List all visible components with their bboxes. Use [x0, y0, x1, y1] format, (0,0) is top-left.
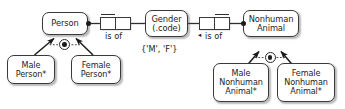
role-cell-gender-2[interactable]: [200, 18, 215, 29]
entity-male-nonhuman-animal-label: Male Nonhuman Animal*: [219, 69, 263, 95]
role-cell-nonhuman-animal[interactable]: [215, 18, 230, 29]
entity-female-person-label: Female Person*: [81, 61, 112, 78]
entity-female-nonhuman-animal-label: Female Nonhuman Animal*: [284, 69, 328, 95]
entity-person-label: Person: [51, 19, 78, 28]
role-cell-gender[interactable]: [116, 18, 131, 29]
predicate-person-gender[interactable]: [100, 17, 131, 30]
mandatory-role-dot-person: [86, 21, 91, 26]
predicate-person-gender-label: is of: [105, 31, 122, 41]
entity-nonhuman-animal-label: Nonhuman Animal: [249, 15, 294, 33]
value-constraint-gender: {'M', 'F'}: [141, 44, 177, 54]
uniqueness-constraint-animal-gender: [215, 14, 229, 15]
entity-female-person[interactable]: Female Person*: [71, 55, 121, 84]
entity-gender-label: Gender (.code): [152, 15, 182, 33]
uniqueness-constraint-person-gender: [101, 14, 115, 15]
subtype-link-female-person: [76, 39, 93, 56]
subtype-link-male-person: [35, 39, 55, 56]
role-cell-person[interactable]: [101, 18, 116, 29]
exclusion-constraint-person[interactable]: [59, 39, 70, 50]
entity-nonhuman-animal[interactable]: Nonhuman Animal: [243, 10, 299, 37]
predicate-animal-gender-direction-icon: ◂: [198, 31, 201, 39]
mandatory-role-dot-nonhuman-animal: [241, 21, 246, 26]
entity-male-person[interactable]: Male Person*: [7, 55, 55, 84]
predicate-animal-gender-label: is of: [205, 31, 222, 41]
entity-person[interactable]: Person: [42, 12, 88, 35]
exclusion-constraint-dot: [62, 42, 67, 47]
entity-male-nonhuman-animal[interactable]: Male Nonhuman Animal*: [213, 63, 269, 102]
predicate-animal-gender[interactable]: [199, 17, 230, 30]
orm-diagram-canvas: Person Gender (.code) Nonhuman Animal Ma…: [0, 0, 345, 109]
entity-female-nonhuman-animal[interactable]: Female Nonhuman Animal*: [277, 63, 335, 102]
exclusion-constraint-nonhuman-animal[interactable]: [265, 52, 276, 63]
entity-gender[interactable]: Gender (.code): [145, 10, 188, 37]
exclusion-constraint-dot: [268, 55, 273, 60]
entity-male-person-label: Male Person*: [16, 61, 47, 78]
